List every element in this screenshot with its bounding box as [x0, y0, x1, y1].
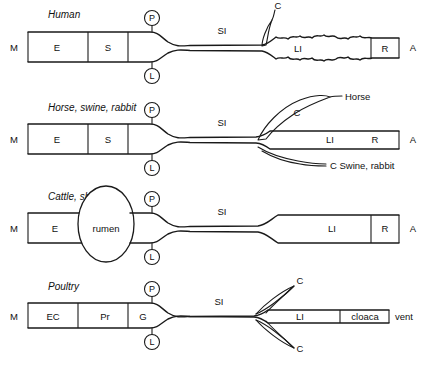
poultry-cecum-upper-label: C [297, 275, 304, 286]
cs-rectum-label: R [382, 223, 389, 234]
poultry-liver-label: L [149, 337, 154, 347]
diagram-canvas: Human P L M E S SI C LI R A Horse, sw [0, 0, 430, 367]
cs-li-label: LI [328, 223, 336, 234]
poultry-li-label: LI [296, 311, 304, 322]
human-liver-label: L [149, 71, 154, 81]
panel-horse-swine-rabbit: Horse, swine, rabbit M E S P L SI C Hors… [10, 91, 417, 176]
hsr-mouth-label: M [10, 134, 18, 145]
hsr-upper-wall [28, 124, 399, 138]
hsr-liver-label: L [149, 163, 154, 173]
human-cecum-shape [262, 20, 272, 46]
human-cecum-label: C [275, 0, 282, 11]
poultry-segment-g-label: G [139, 311, 146, 322]
panel-title-horse: Horse, swine, rabbit [48, 102, 138, 113]
human-rectum-label: R [382, 43, 389, 54]
poultry-mouth-label: M [10, 311, 18, 322]
human-upper-wall [28, 32, 399, 46]
cs-mouth-label: M [10, 223, 18, 234]
cs-upper-wall [130, 213, 399, 227]
human-mouth-label: M [10, 42, 18, 53]
cs-si-label: SI [218, 206, 227, 217]
human-li-label: LI [294, 43, 302, 54]
poultry-si-label: SI [215, 296, 224, 307]
cs-lower-wall [130, 231, 399, 243]
cs-pancreas-label: P [149, 194, 155, 204]
poultry-cloaca-label: cloaca [351, 311, 379, 322]
panel-cattle-sheep: Cattle, sheep P L M E rumen SI LI R A [10, 186, 417, 265]
human-cecum-leader [272, 10, 275, 20]
hsr-pancreas-label: P [149, 105, 155, 115]
human-pancreas-label: P [149, 13, 155, 23]
panel-title-human: Human [48, 9, 81, 20]
poultry-cecum-lower-shape [256, 320, 294, 348]
hsr-anus-label: A [410, 134, 417, 145]
poultry-upper-wall [28, 303, 389, 317]
hsr-horse-note: Horse [345, 91, 370, 102]
human-anus-label: A [410, 42, 417, 53]
hsr-rectum-label: R [372, 134, 379, 145]
human-lower-wall [28, 50, 399, 62]
panel-title-poultry: Poultry [48, 281, 80, 292]
cs-anus-label: A [410, 223, 417, 234]
hsr-segment-e-label: E [54, 134, 60, 145]
human-segment-s-label: S [105, 42, 111, 53]
poultry-pancreas-label: P [149, 284, 155, 294]
human-segment-e-label: E [54, 42, 60, 53]
hsr-swine-rabbit-note: C Swine, rabbit [330, 160, 395, 171]
poultry-cecum-lower-edge [256, 320, 294, 348]
cs-segment-e-label: E [52, 223, 58, 234]
hsr-horse-cecum-leader [330, 96, 342, 97]
cs-rumen-label: rumen [93, 223, 120, 234]
poultry-vent-label: vent [395, 311, 413, 322]
poultry-segment-ec-label: EC [46, 311, 59, 322]
hsr-cecum-label: C [294, 107, 301, 118]
human-si-label: SI [218, 25, 227, 36]
poultry-segment-pr-label: Pr [100, 311, 110, 322]
cs-liver-label: L [149, 252, 154, 262]
poultry-cecum-lower-label: C [297, 343, 304, 354]
poultry-lower-wall [28, 316, 389, 328]
hsr-li-label: LI [326, 134, 334, 145]
hsr-lower-wall [28, 142, 399, 154]
panel-poultry: Poultry P L M EC Pr G SI C C LI cloaca v… [10, 275, 413, 354]
hsr-segment-s-label: S [105, 134, 111, 145]
hsr-si-label: SI [218, 117, 227, 128]
panel-human: Human P L M E S SI C LI R A [10, 0, 417, 84]
